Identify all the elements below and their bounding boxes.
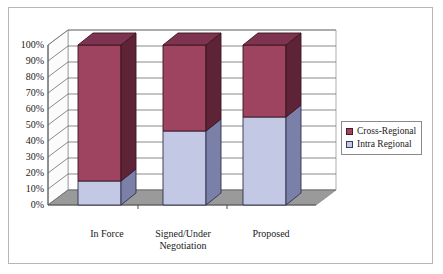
legend-item-cross-regional: Cross-Regional xyxy=(346,125,416,138)
y-tick-label: 90% xyxy=(10,56,44,66)
bar-proposed-cross-side xyxy=(286,33,301,117)
bar-signed-cross-side xyxy=(206,33,221,131)
chart-legend: Cross-Regional Intra Regional xyxy=(341,121,422,155)
x-label-line1: Signed/Under xyxy=(155,228,211,239)
y-tick-label: 100% xyxy=(10,40,44,50)
y-tick-label: 20% xyxy=(10,168,44,178)
x-label-line2: Negotiation xyxy=(159,240,206,251)
legend-label: Cross-Regional xyxy=(357,126,416,137)
bar-proposed-cross-front xyxy=(243,45,286,117)
chart-screenshot: 100% 90% 80% 70% 60% 50% 40% 30% 20% 10%… xyxy=(0,0,443,274)
x-label-line1: Proposed xyxy=(252,228,289,239)
x-label-line1: In Force xyxy=(90,228,124,239)
intra-regional-swatch-icon xyxy=(346,141,353,148)
y-tick-label: 30% xyxy=(10,152,44,162)
bar-group-proposed xyxy=(243,33,301,205)
y-tick-label: 60% xyxy=(10,104,44,114)
bar-proposed-intra-front xyxy=(243,117,286,205)
bar-group-in-force xyxy=(78,33,136,205)
y-tick-label: 40% xyxy=(10,136,44,146)
legend-item-intra-regional: Intra Regional xyxy=(346,138,416,151)
cross-regional-swatch-icon xyxy=(346,128,353,135)
bar-group-signed-under-negotiation xyxy=(163,33,221,205)
y-tick-label: 50% xyxy=(10,120,44,130)
legend-label: Intra Regional xyxy=(357,139,412,150)
chart-plot-area: 100% 90% 80% 70% 60% 50% 40% 30% 20% 10%… xyxy=(0,0,443,274)
y-tick-label: 10% xyxy=(10,184,44,194)
bar-in-force-cross-side xyxy=(121,33,136,181)
bar-signed-intra-side xyxy=(206,119,221,205)
bar-in-force-intra-front xyxy=(78,181,121,205)
bar-proposed-intra-side xyxy=(286,105,301,205)
bar-in-force-cross-front xyxy=(78,45,121,181)
chart-x-tickmarks xyxy=(138,205,227,209)
bar-signed-intra-front xyxy=(163,131,206,205)
bar-signed-cross-front xyxy=(163,45,206,131)
y-tick-label: 70% xyxy=(10,88,44,98)
y-tick-label: 80% xyxy=(10,72,44,82)
y-tick-label: 0% xyxy=(10,200,44,210)
x-axis-label-signed-under-negotiation: Signed/Under Negotiation xyxy=(131,228,235,252)
x-axis-label-proposed: Proposed xyxy=(226,228,316,240)
